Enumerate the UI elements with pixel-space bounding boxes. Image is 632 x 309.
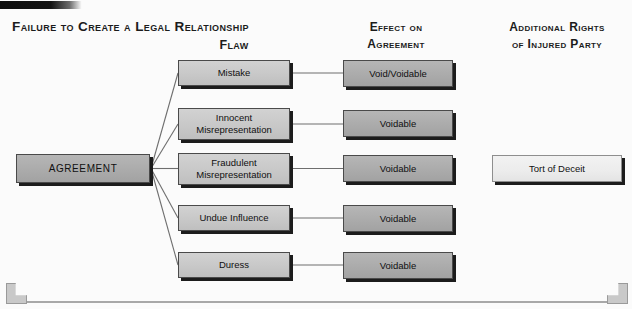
node-flaw-3-text: Fraudulent Misrepresentation: [196, 157, 272, 181]
node-flaw-2-line1: Innocent: [216, 112, 252, 123]
node-flaw-fraudulent-misrepresentation[interactable]: Fraudulent Misrepresentation: [178, 153, 290, 185]
node-flaw-3-line1: Fraudulent: [211, 157, 256, 168]
diagram-canvas: Failure to Create a Legal Relationship F…: [0, 0, 632, 309]
node-effect-void-voidable[interactable]: Void/Voidable: [343, 60, 453, 87]
node-flaw-undue-influence[interactable]: Undue Influence: [178, 205, 290, 231]
connector-root-to-flaw-4: [151, 169, 178, 219]
node-rights-tort-of-deceit[interactable]: Tort of Deceit: [492, 155, 622, 182]
node-flaw-duress[interactable]: Duress: [178, 252, 290, 278]
connector-root-to-flaw-1: [151, 73, 178, 169]
node-flaw-2-line2: Misrepresentation: [196, 124, 272, 135]
node-flaw-3-line2: Misrepresentation: [196, 169, 272, 180]
node-flaw-2-text: Innocent Misrepresentation: [196, 112, 272, 136]
node-flaw-mistake[interactable]: Mistake: [178, 60, 290, 86]
node-flaw-innocent-misrepresentation[interactable]: Innocent Misrepresentation: [178, 108, 290, 140]
node-agreement[interactable]: AGREEMENT: [16, 154, 150, 183]
node-effect-voidable-3[interactable]: Voidable: [343, 155, 453, 182]
node-effect-voidable-4[interactable]: Voidable: [343, 205, 453, 232]
connector-root-to-flaw-5: [151, 169, 178, 266]
node-effect-voidable-5[interactable]: Voidable: [343, 252, 453, 279]
bottom-frame-rule: [6, 301, 626, 303]
node-effect-voidable-2[interactable]: Voidable: [343, 110, 453, 137]
connector-root-to-flaw-2: [151, 124, 178, 169]
